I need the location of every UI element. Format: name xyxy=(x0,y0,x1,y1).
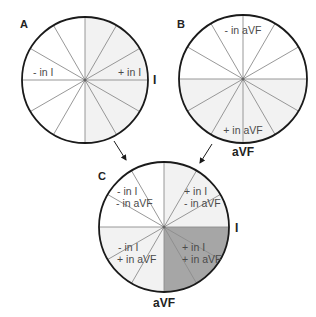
quadrant-label-1-line1: - in I xyxy=(117,185,137,197)
circle-c: C I aVF - in I - in aVF + in I - in aVF … xyxy=(98,162,238,310)
circle-a: A I - in I + in I xyxy=(20,17,156,143)
quadrant-label-3-line2: + in aVF xyxy=(117,253,156,265)
region-label-negative-i: - in I xyxy=(33,66,53,78)
region-label-positive-i: + in I xyxy=(118,66,141,78)
arrow-a-to-c xyxy=(114,141,126,160)
circle-b: B aVF - in aVF + in aVF xyxy=(177,15,307,159)
quadrant-label-4-line2: + in aVF xyxy=(182,253,221,265)
lead-label-i-c: I xyxy=(235,221,238,235)
arrow-b-to-c xyxy=(200,144,212,163)
panel-label-c: C xyxy=(98,170,106,182)
lead-label-i-a: I xyxy=(153,73,156,87)
quadrant-label-1-line2: - in aVF xyxy=(116,197,153,209)
region-label-positive-avf: + in aVF xyxy=(223,124,262,136)
quadrant-label-4-line1: + in I xyxy=(182,241,205,253)
quadrant-label-2-line2: - in aVF xyxy=(184,197,221,209)
panel-label-b: B xyxy=(177,18,185,30)
lead-label-avf-b: aVF xyxy=(232,145,254,159)
quadrant-label-3-line1: - in I xyxy=(118,241,138,253)
quadrant-label-2-line1: + in I xyxy=(184,185,207,197)
region-label-negative-avf: - in aVF xyxy=(225,24,262,36)
hexaxial-diagram: A I - in I + in I B aVF - in aVF + in aV… xyxy=(0,0,316,317)
panel-label-a: A xyxy=(20,18,28,30)
lead-label-avf-c: aVF xyxy=(153,296,175,310)
